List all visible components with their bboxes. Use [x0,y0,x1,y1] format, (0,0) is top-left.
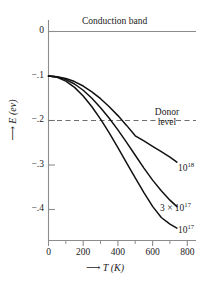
curves-group [49,76,177,228]
x-tick-label-400: 400 [103,247,133,257]
curve-3e17 [49,76,177,207]
curve-label-3e17: 3 × 1017 [160,203,191,213]
x-tick-label-0: 0 [34,247,64,257]
curve-label-1e17-mantissa: 10 [178,225,188,235]
x-tick-marks [49,241,188,247]
plot-canvas [0,0,208,284]
x-axis-title: ⟶ T (K) [86,263,124,274]
curve-label-1e17: 1017 [178,225,194,235]
x-tick-label-600: 600 [138,247,168,257]
curve-label-3e17-mantissa: 3 × 10 [160,203,184,213]
donor-level-label-line1: Donor [155,107,179,117]
y-tick-label-minus-0-3: −.3 [18,159,44,169]
donor-level-label: Donor level [146,108,188,128]
donor-level-label-line2: level [158,117,176,127]
curve-1e17 [49,76,177,228]
curve-label-1e18-mantissa: 10 [178,163,188,173]
x-tick-label-800: 800 [172,247,202,257]
curve-label-1e18: 1018 [178,163,194,173]
y-axis-title-text: E (ev) [7,100,18,124]
chart-figure: 0 −.1 −.2 −.3 −.4 0 200 400 600 800 ⟶ T … [0,0,208,284]
x-tick-label-200: 200 [68,247,98,257]
x-axis-title-text: T (K) [103,262,124,273]
curve-label-3e17-exponent: 17 [184,201,191,208]
curve-label-1e17-exponent: 17 [188,223,195,230]
curve-label-1e18-exponent: 18 [188,161,195,168]
y-tick-label-minus-0-4: −.4 [18,203,44,213]
y-tick-label-minus-0-1: −.1 [18,70,44,80]
y-axis-title: ⟶ E (ev) [7,81,23,159]
conduction-band-label: Conduction band [82,16,147,26]
y-tick-label-0: 0 [18,25,44,35]
x-axis-arrow-icon: ⟶ [86,262,100,273]
y-axis-arrow-icon: ⟶ [7,126,18,140]
